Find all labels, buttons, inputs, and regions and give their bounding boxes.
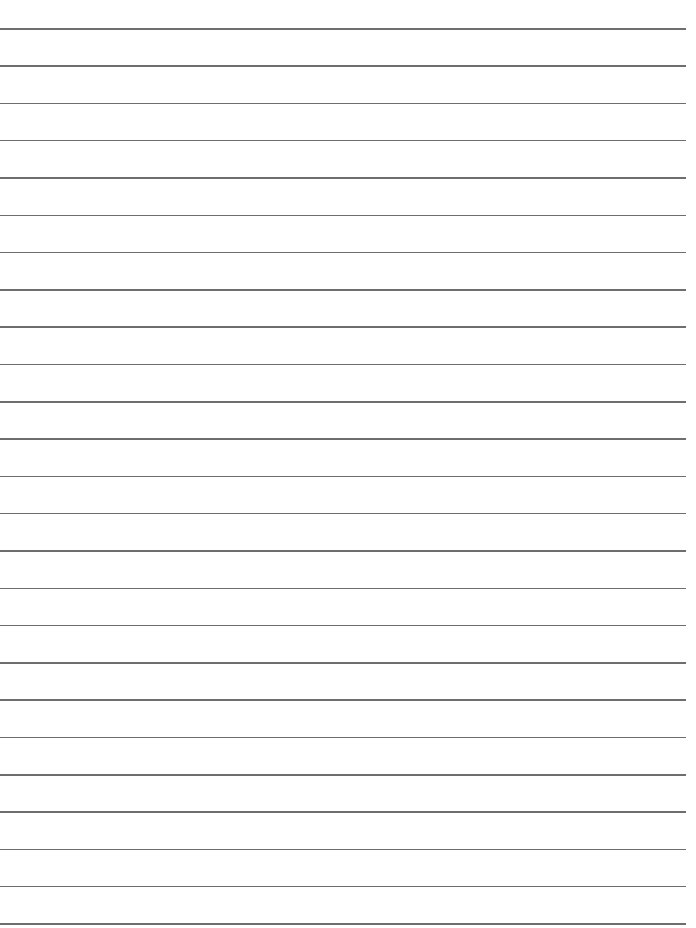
ruled-line [0, 774, 686, 776]
ruled-line [0, 364, 686, 366]
ruled-line [0, 289, 686, 291]
ruled-line [0, 252, 686, 254]
ruled-line [0, 215, 686, 217]
ruled-line [0, 326, 686, 328]
ruled-line [0, 625, 686, 627]
ruled-line [0, 923, 686, 925]
ruled-line [0, 588, 686, 590]
ruled-line [0, 662, 686, 664]
ruled-line [0, 140, 686, 142]
ruled-line [0, 737, 686, 739]
ruled-line [0, 476, 686, 478]
ruled-line [0, 438, 686, 440]
lined-paper-page [0, 0, 696, 928]
ruled-line [0, 401, 686, 403]
ruled-line [0, 699, 686, 701]
ruled-line [0, 550, 686, 552]
ruled-line [0, 849, 686, 851]
ruled-line [0, 513, 686, 515]
ruled-line [0, 65, 686, 67]
ruled-line [0, 886, 686, 888]
ruled-line [0, 177, 686, 179]
ruled-line [0, 28, 686, 30]
ruled-line [0, 811, 686, 813]
ruled-line [0, 103, 686, 105]
